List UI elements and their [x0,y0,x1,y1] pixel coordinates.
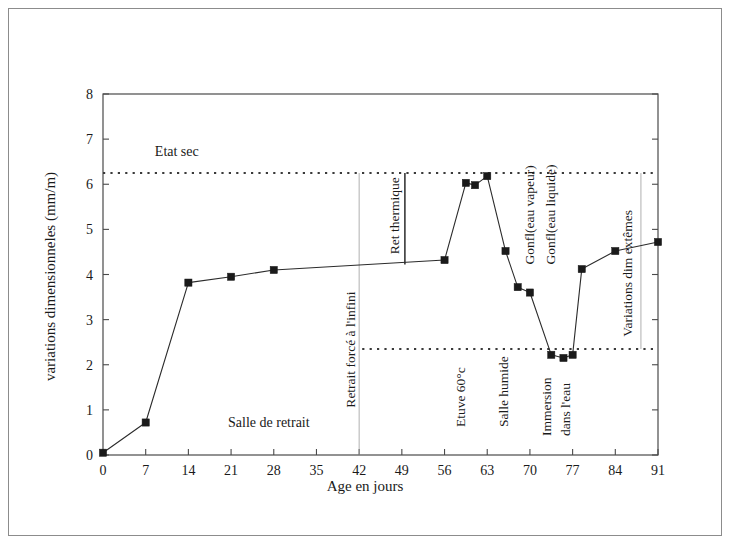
y-tick-label: 4 [86,268,93,283]
data-point-marker [612,247,619,254]
annotation-retrait-force-a-linfini: Retrait forcé à l'infini [343,291,358,407]
data-point-marker [548,351,555,358]
annotation-etuve-60c: Etuve 60°c [453,367,468,427]
reference-lines-group [103,173,658,349]
x-tick-label: 21 [224,463,238,478]
x-tick-label: 7 [142,463,149,478]
y-tick-label: 6 [86,177,93,192]
annotation-etat-sec: Etat sec [155,144,199,159]
y-tick-label: 1 [86,403,93,418]
x-tick-label: 77 [566,463,580,478]
x-axis-title: Age en jours [285,478,445,495]
data-point-marker [471,182,478,189]
y-tick-label: 8 [86,87,93,102]
data-point-marker [270,266,277,273]
x-tick-label: 91 [651,463,665,478]
annotation-immersion-dans-leau-2: dans l'eau [558,383,573,436]
data-point-marker [441,256,448,263]
x-tick-label: 70 [523,463,537,478]
annotation-salle-de-retrait: Salle de retrait [228,415,310,430]
data-point-marker [578,265,585,272]
data-point-marker [654,238,661,245]
x-tick-label: 63 [480,463,494,478]
data-point-marker [99,449,106,456]
data-point-marker [560,354,567,361]
annotation-variations-dim-extremes: Variations dim extêmes [620,210,635,337]
x-tick-label: 28 [267,463,281,478]
data-point-marker [514,284,521,291]
data-point-marker [569,351,576,358]
annotation-ret-thermique: Ret thermique [387,177,402,254]
x-tick-label: 42 [352,463,366,478]
y-tick-label: 2 [86,358,93,373]
data-point-marker [462,179,469,186]
annotation-gonfl-eau-liquide: Gonfl(eau liquide) [543,164,558,264]
chart-figure: 07142128354249566370778491012345678 Etat… [0,0,733,547]
x-tick-label: 56 [438,463,452,478]
annotation-gonfl-eau-vapeur: Gonfl(eau vapeur) [522,165,537,264]
data-point-marker [502,247,509,254]
x-tick-label: 14 [181,463,195,478]
x-tick-label: 35 [309,463,323,478]
y-tick-label: 7 [86,132,93,147]
y-axis-title: variations dimensionneles (mm/m) [42,147,59,407]
x-tick-label: 49 [395,463,409,478]
annotation-salle-humide: Salle humide [496,356,511,427]
y-tick-label: 3 [86,313,93,328]
x-tick-label: 84 [608,463,622,478]
figure-page: 07142128354249566370778491012345678 Etat… [0,0,733,547]
series-line [103,176,658,453]
annotations-group: Etat secSalle de retraitRetrait forcé à … [155,144,635,436]
data-series-group [99,173,661,457]
data-point-marker [484,173,491,180]
data-point-marker [142,419,149,426]
data-point-marker [185,279,192,286]
chart-canvas: 07142128354249566370778491012345678 Etat… [0,0,733,547]
x-tick-label: 0 [100,463,107,478]
data-point-marker [227,273,234,280]
y-tick-label: 5 [86,222,93,237]
data-point-marker [526,289,533,296]
annotation-immersion-dans-leau-1: Immersion [539,377,554,436]
y-tick-label: 0 [86,448,93,463]
